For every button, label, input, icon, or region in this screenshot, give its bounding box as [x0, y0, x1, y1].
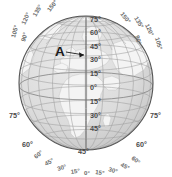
- longitude-label-15w: 15°: [70, 167, 81, 175]
- latitude-label-equator: 0°: [90, 83, 97, 92]
- latitude-label-75n: 75°: [90, 15, 101, 24]
- latitude-label-30n: 30°: [90, 55, 101, 64]
- latitude-label-45n: 45°: [90, 42, 101, 51]
- latitude-label-15s: 15°: [90, 97, 101, 106]
- latitude-label-30s: 30°: [90, 111, 101, 120]
- latitude-label-right-75: 75°: [150, 111, 161, 120]
- latitude-label-left-75: 75°: [9, 111, 20, 120]
- latitude-labels-center-group: 75° 60° 45° 30° 15° 0° 15° 30° 45°: [90, 15, 101, 133]
- latitude-label-60n: 60°: [90, 28, 101, 37]
- latitude-label-15n: 15°: [90, 69, 101, 78]
- marker-label-a: A: [55, 44, 65, 59]
- longitude-label-0: 0°: [84, 169, 90, 176]
- globe-figure: 75° 60° 45° 30° 15° 0° 15° 30° 45° 75° 6…: [0, 0, 172, 177]
- latitude-label-left-60: 60°: [22, 140, 33, 149]
- latitude-label-right-60: 60°: [136, 140, 147, 149]
- latitude-label-45s: 45°: [90, 124, 101, 133]
- latitude-label-45s-bottom: 45°: [78, 147, 89, 156]
- longitude-label-15e: 15°: [95, 168, 106, 176]
